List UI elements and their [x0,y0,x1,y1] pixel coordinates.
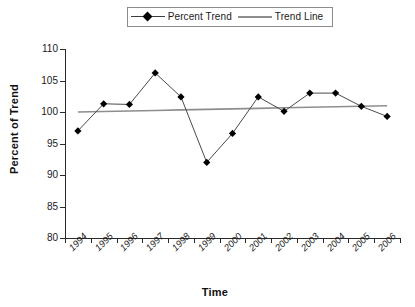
series-percent-trend [78,73,387,162]
data-point-marker [255,93,262,100]
chart-plot-area [0,0,415,307]
chart-figure: Percent Trend Trend Line 110105100959085… [0,0,415,307]
data-point-marker [306,90,313,97]
data-point-marker [332,90,339,97]
percent-trend-path [78,73,387,162]
data-point-marker [358,103,365,110]
trend-line-path [78,106,387,112]
data-point-marker [280,108,287,115]
series-trend-line [78,106,387,112]
data-point-marker [384,113,391,120]
series-percent-trend-markers [74,69,390,166]
